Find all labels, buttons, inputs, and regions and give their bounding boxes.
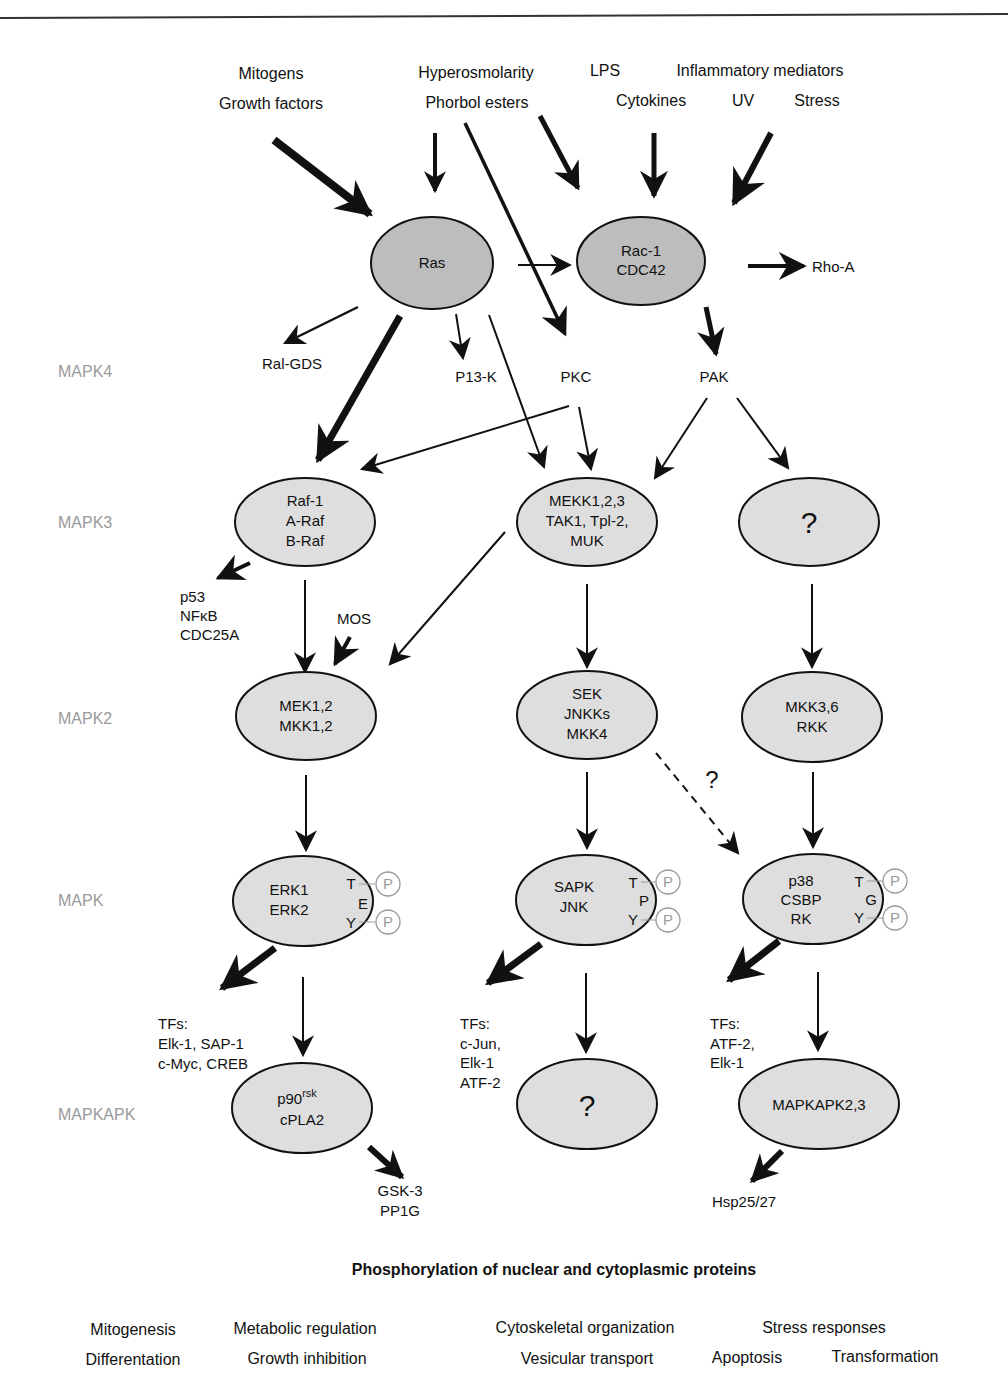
node-mek: MEK1,2 MKK1,2 <box>236 672 376 760</box>
question-mark-label: ? <box>801 506 818 539</box>
pak-label: PAK <box>700 368 729 385</box>
node-mapk3-unknown: ? <box>739 478 879 566</box>
outcome-vesicular-transport: Vesicular transport <box>521 1350 654 1367</box>
footer-title: Phosphorylation of nuclear and cytoplasm… <box>352 1261 757 1278</box>
tier-mapk4: MAPK4 <box>58 363 112 380</box>
csbp-label: CSBP <box>781 891 822 908</box>
outcome-cytoskeletal-organization: Cytoskeletal organization <box>496 1319 675 1336</box>
mapkapk23-label: MAPKAPK2,3 <box>772 1096 865 1113</box>
sapk-label: SAPK <box>554 878 594 895</box>
question-mark-label: ? <box>579 1089 596 1122</box>
arrow-raf-to-targets <box>218 563 250 578</box>
b-raf-label: B-Raf <box>286 532 325 549</box>
stimulus-cytokines: Cytokines <box>616 92 686 109</box>
phosphate-label: P <box>890 872 900 889</box>
tier-mapk3: MAPK3 <box>58 514 112 531</box>
arrow-mitogens-to-ras <box>274 140 370 214</box>
cpla2-label: cPLA2 <box>280 1111 324 1128</box>
node-mkk36: MKK3,6 RKK <box>742 672 882 762</box>
rk-label: RK <box>791 910 812 927</box>
node-sapk: SAPK JNK T P Y P P <box>516 855 680 945</box>
erk2-label: ERK2 <box>269 901 308 918</box>
outcome-growth-inhibition: Growth inhibition <box>247 1350 366 1367</box>
header-rule <box>0 14 1008 18</box>
rac1-label: Rac-1 <box>621 242 661 259</box>
arrow-mapkapk-to-hsp <box>752 1151 782 1181</box>
arrow-pkc-to-mekk <box>579 407 591 469</box>
node-raf: Raf-1 A-Raf B-Raf <box>235 478 375 566</box>
mek12-label: MEK1,2 <box>279 697 332 714</box>
tfs-line: c-Jun, <box>460 1035 501 1052</box>
phosphate-label: P <box>383 913 393 930</box>
p38-tfs: TFs: ATF-2, Elk-1 <box>710 1015 755 1071</box>
arrow-pak-to-unknown <box>737 398 788 468</box>
node-mekk: MEKK1,2,3 TAK1, Tpl-2, MUK <box>517 478 657 566</box>
node-sek: SEK JNKKs MKK4 <box>517 671 657 759</box>
tfs-heading: TFs: <box>460 1015 490 1032</box>
arrow-p90-to-gsk <box>369 1147 402 1177</box>
tfs-line: Elk-1, SAP-1 <box>158 1035 244 1052</box>
tfs-heading: TFs: <box>158 1015 188 1032</box>
motif-t: T <box>628 874 637 891</box>
mkk12-label: MKK1,2 <box>279 717 332 734</box>
node-mapkapk23: MAPKAPK2,3 <box>739 1059 899 1149</box>
outcome-transformation: Transformation <box>832 1348 939 1365</box>
stimulus-phorbol-esters: Phorbol esters <box>425 94 528 111</box>
raf1-label: Raf-1 <box>287 492 324 509</box>
arrow-mekk-to-mek <box>390 532 505 664</box>
node-p38: p38 CSBP RK T G Y P P <box>743 854 907 944</box>
arrow-stress-to-rac <box>734 133 771 203</box>
phosphate-label: P <box>890 909 900 926</box>
rkk-label: RKK <box>797 718 828 735</box>
gsk3-label: GSK-3 <box>377 1182 422 1199</box>
pi3k-label: P13-K <box>455 368 497 385</box>
mekk-label: MEKK1,2,3 <box>549 492 625 509</box>
node-ras: Ras <box>371 217 493 309</box>
hsp-label: Hsp25/27 <box>712 1193 776 1210</box>
tier-mapk: MAPK <box>58 892 104 909</box>
node-rac-cdc42: Rac-1 CDC42 <box>577 217 705 305</box>
rho-a-label: Rho-A <box>812 258 855 275</box>
phosphate-label: P <box>663 873 673 890</box>
outcomes: Mitogenesis Metabolic regulation Cytoske… <box>86 1319 939 1368</box>
arrow-mos-to-mek <box>335 637 350 664</box>
stimulus-mitogens: Mitogens <box>239 65 304 82</box>
phosphate-label: P <box>383 875 393 892</box>
pp1g-label: PP1G <box>380 1202 420 1219</box>
stimulus-inflammatory-mediators: Inflammatory mediators <box>676 62 843 79</box>
arrow-sek-to-p38-dashed <box>656 753 738 853</box>
mapk-pathway-diagram: Mitogens Growth factors Hyperosmolarity … <box>0 0 1008 1386</box>
tfs-line: Elk-1 <box>710 1054 744 1071</box>
arrow-ras-to-mekk <box>489 315 544 467</box>
tier-mapkapk: MAPKAPK <box>58 1106 136 1123</box>
mkk4-label: MKK4 <box>567 725 608 742</box>
arrow-ras-to-raf <box>318 316 400 460</box>
tak1-label: TAK1, Tpl-2, <box>546 512 629 529</box>
raf-targets: p53 NFκB CDC25A <box>180 588 239 643</box>
dashed-question-label: ? <box>705 766 718 793</box>
jnkks-label: JNKKs <box>564 705 610 722</box>
stimulus-growth-factors: Growth factors <box>219 95 323 112</box>
node-p90rsk: p90rsk cPLA2 <box>232 1063 372 1153</box>
arrow-pkc-to-raf <box>362 406 569 469</box>
node-erk: ERK1 ERK2 T E Y P P <box>233 856 400 946</box>
sek-label: SEK <box>572 685 602 702</box>
motif-e: E <box>358 895 368 912</box>
tfs-line: c-Myc, CREB <box>158 1055 248 1072</box>
cdc25a-label: CDC25A <box>180 626 239 643</box>
arrow-sapk-to-tfs <box>488 944 541 983</box>
stimulus-hyperosmolarity: Hyperosmolarity <box>418 64 534 81</box>
stimulus-uv: UV <box>732 92 755 109</box>
jnk-label: JNK <box>560 898 588 915</box>
tfs-line: ATF-2 <box>460 1074 501 1091</box>
ral-gds-label: Ral-GDS <box>262 355 322 372</box>
motif-y: Y <box>346 914 356 931</box>
outcome-metabolic-regulation: Metabolic regulation <box>233 1320 376 1337</box>
motif-t: T <box>346 875 355 892</box>
muk-label: MUK <box>570 532 603 549</box>
sapk-tfs: TFs: c-Jun, Elk-1 ATF-2 <box>460 1015 501 1091</box>
tier-mapk2: MAPK2 <box>58 710 112 727</box>
stimulus-stress: Stress <box>794 92 839 109</box>
a-raf-label: A-Raf <box>286 512 325 529</box>
pkc-label: PKC <box>561 368 592 385</box>
